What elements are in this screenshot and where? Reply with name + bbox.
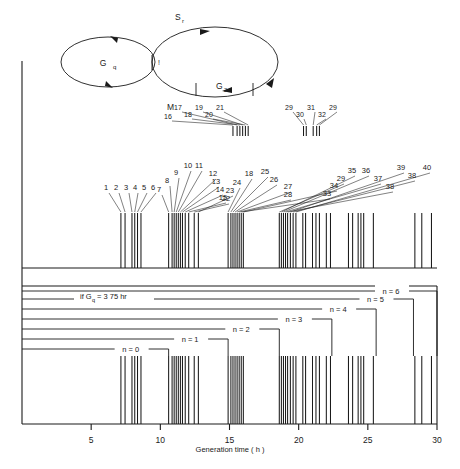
n-bracket-label: n = 1 <box>182 335 199 344</box>
upper-leader-lines <box>172 112 337 125</box>
x-tick-label: 25 <box>363 435 373 445</box>
spike-label: 30 <box>296 111 304 118</box>
x-tick-label: 5 <box>89 435 94 445</box>
spike-label: 40 <box>423 163 431 172</box>
leader-line <box>170 186 172 212</box>
spike-label: 25 <box>261 167 269 176</box>
spike-label: 39 <box>397 163 405 172</box>
spike-label: 18 <box>184 111 192 118</box>
upper-tick-marks <box>233 126 319 136</box>
main-spike-lines <box>121 213 432 268</box>
spike-label: 8 <box>165 176 169 185</box>
figure-canvas: G q S r G 2 M ! 51015202530 Generation t… <box>0 0 460 469</box>
svg-text:r: r <box>182 18 184 24</box>
leader-line <box>138 193 147 212</box>
x-tick-label: 15 <box>225 435 235 445</box>
spike-label: 32 <box>318 111 326 118</box>
spike-label: 37 <box>374 174 382 183</box>
svg-text:S: S <box>175 12 181 22</box>
x-tick-label: 10 <box>156 435 166 445</box>
leader-line <box>194 204 229 212</box>
n-bracket-label: n = 2 <box>233 325 250 334</box>
spike-label: 38 <box>408 171 416 180</box>
leader-line <box>109 193 121 212</box>
axes: 51015202530 Generation time ( h ) <box>22 61 442 454</box>
x-tick-label: 30 <box>432 435 442 445</box>
spike-label: 19 <box>195 104 203 111</box>
leader-line <box>313 112 315 125</box>
leader-line <box>162 195 169 212</box>
leader-line <box>141 193 156 212</box>
spike-label: 7 <box>157 185 161 194</box>
spike-label: 17 <box>174 104 182 111</box>
svg-text:G: G <box>216 81 223 91</box>
spike-label: 26 <box>270 175 278 184</box>
spike-label: 5 <box>142 183 146 192</box>
leader-line <box>317 119 326 125</box>
spike-label: 38 <box>386 182 394 191</box>
leader-line <box>135 193 138 212</box>
spike-label: 23 <box>226 186 234 195</box>
spike-label: 4 <box>133 183 137 192</box>
cell-cycle-diagram: G q S r G 2 M ! <box>61 12 278 112</box>
svg-text:M: M <box>167 102 174 112</box>
spike-label: 10 <box>184 161 192 170</box>
leader-line <box>119 193 125 212</box>
spike-label: 29 <box>329 104 337 111</box>
spike-label: 11 <box>195 161 203 170</box>
svg-text:q: q <box>113 64 116 70</box>
figure-svg: G q S r G 2 M ! 51015202530 Generation t… <box>0 0 460 469</box>
spike-label: 24 <box>233 178 241 187</box>
leader-line <box>176 171 191 212</box>
x-tick-label: 20 <box>294 435 304 445</box>
spike-label: 18 <box>245 169 253 178</box>
n-bracket-label: n = 3 <box>285 315 302 324</box>
leader-line <box>290 173 404 212</box>
leader-line <box>180 179 216 212</box>
n-bracket-label: n = 6 <box>383 287 400 296</box>
svg-text:q: q <box>92 297 95 303</box>
spike-label: 1 <box>104 183 108 192</box>
bottom-spike-lines <box>121 356 432 424</box>
upper-spike-labels: 1617181920212930313229 <box>164 104 337 120</box>
spike-label: 20 <box>205 111 213 118</box>
leader-line <box>189 203 226 212</box>
n-bracket-label: n = 0 <box>122 345 139 354</box>
n-bracket-label: n = 4 <box>330 305 347 314</box>
leader-line <box>304 119 306 125</box>
spike-label: 35 <box>348 166 356 175</box>
n-bracket-label: n = 5 <box>367 295 384 304</box>
svg-text:!: ! <box>158 59 160 66</box>
spike-label: 21 <box>216 104 224 111</box>
spike-label: 3 <box>124 183 128 192</box>
spike-label: 9 <box>174 168 178 177</box>
svg-text:if G: if G <box>80 292 92 301</box>
spike-label: 16 <box>164 113 172 120</box>
svg-text:G: G <box>100 58 107 68</box>
spike-label: 31 <box>307 104 315 111</box>
leader-line <box>129 193 132 212</box>
spike-label: 6 <box>151 183 155 192</box>
svg-text:= 3 75 hr: = 3 75 hr <box>97 292 127 301</box>
gq-note: if G q = 3 75 hr <box>74 292 154 303</box>
svg-text:Generation time ( h ): Generation time ( h ) <box>196 445 265 454</box>
spike-label: 29 <box>337 174 345 183</box>
spike-label: 22 <box>222 194 230 203</box>
n-bracket-labels: n = 0n = 1n = 2n = 3n = 4n = 5n = 6 <box>115 285 409 354</box>
spike-label: 29 <box>285 104 293 111</box>
spike-label: 36 <box>362 166 370 175</box>
spike-label: 33 <box>323 189 331 198</box>
spike-label: 2 <box>114 183 118 192</box>
spike-label: 28 <box>284 190 292 199</box>
